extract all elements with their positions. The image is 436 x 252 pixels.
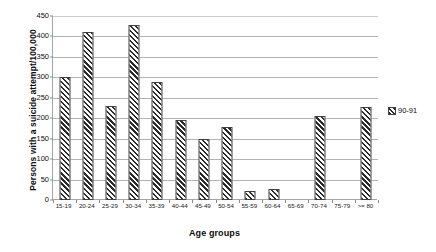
x-axis-tick-label: 20-24 bbox=[79, 203, 95, 209]
x-axis-tick-label: 70-74 bbox=[311, 203, 327, 209]
y-axis-tick-label: 50 bbox=[41, 176, 49, 184]
y-axis-tick-label: 200 bbox=[36, 114, 49, 122]
bar[interactable] bbox=[198, 139, 209, 200]
bar-slot bbox=[239, 16, 262, 200]
bar[interactable] bbox=[175, 120, 186, 200]
x-axis-tick-labels: 15-1920-2425-2930-3435-3940-4445-4950-54… bbox=[52, 203, 377, 215]
x-axis-tick-label: 15-19 bbox=[56, 203, 72, 209]
x-axis-tick-label: 45-49 bbox=[195, 203, 211, 209]
x-axis-tick-label: 35-39 bbox=[149, 203, 165, 209]
bar[interactable] bbox=[361, 107, 372, 200]
y-axis-tick-label: 100 bbox=[36, 155, 49, 163]
x-axis-tick-label: >= 80 bbox=[357, 203, 373, 209]
bars-layer bbox=[53, 16, 378, 200]
bar[interactable] bbox=[268, 189, 279, 200]
bar[interactable] bbox=[59, 77, 70, 200]
bar-slot bbox=[123, 16, 146, 200]
legend-label: 90-91 bbox=[398, 107, 417, 115]
bar-chart: Persons with a suicide attempt/100,000 0… bbox=[0, 0, 436, 252]
y-axis-tick-label: 150 bbox=[36, 135, 49, 143]
x-axis-tick-label: 30-34 bbox=[125, 203, 141, 209]
bar-slot bbox=[169, 16, 192, 200]
plot-area: 050100150200250300350400450 bbox=[52, 16, 377, 200]
x-axis-tick-label: 25-29 bbox=[102, 203, 118, 209]
bar[interactable] bbox=[129, 25, 140, 200]
bar[interactable] bbox=[82, 32, 93, 200]
bar-slot bbox=[76, 16, 99, 200]
x-axis-tick-label: 60-64 bbox=[265, 203, 281, 209]
y-axis-tick-label: 400 bbox=[36, 33, 49, 41]
y-axis-tick-label: 450 bbox=[36, 12, 49, 20]
bar-slot bbox=[332, 16, 355, 200]
y-axis-tick-label: 250 bbox=[36, 94, 49, 102]
x-axis-tick-label: 75-79 bbox=[334, 203, 350, 209]
bar-slot bbox=[53, 16, 76, 200]
legend-swatch-icon bbox=[388, 107, 396, 115]
bar[interactable] bbox=[314, 116, 325, 200]
bar[interactable] bbox=[152, 82, 163, 200]
y-axis-title: Persons with a suicide attempt/100,000 bbox=[28, 15, 38, 205]
x-axis-tick-label: 50-54 bbox=[218, 203, 234, 209]
x-axis-tick-label: 40-44 bbox=[172, 203, 188, 209]
bar-slot bbox=[192, 16, 215, 200]
legend: 90-91 bbox=[388, 107, 417, 115]
bar[interactable] bbox=[245, 191, 256, 200]
bar-slot bbox=[285, 16, 308, 200]
y-axis-tick-label: 0 bbox=[45, 196, 49, 204]
x-axis-tick-label: 65-69 bbox=[288, 203, 304, 209]
bar-slot bbox=[99, 16, 122, 200]
y-axis-tick-label: 350 bbox=[36, 53, 49, 61]
bar-slot bbox=[216, 16, 239, 200]
bar[interactable] bbox=[222, 127, 233, 200]
bar[interactable] bbox=[106, 106, 117, 200]
x-axis-title: Age groups bbox=[52, 228, 377, 238]
bar-slot bbox=[262, 16, 285, 200]
x-axis-tick-mark bbox=[378, 200, 379, 203]
x-axis-tick-label: 55-59 bbox=[241, 203, 257, 209]
bar-slot bbox=[355, 16, 378, 200]
y-axis-tick-label: 300 bbox=[36, 74, 49, 82]
bar-slot bbox=[308, 16, 331, 200]
bar-slot bbox=[146, 16, 169, 200]
